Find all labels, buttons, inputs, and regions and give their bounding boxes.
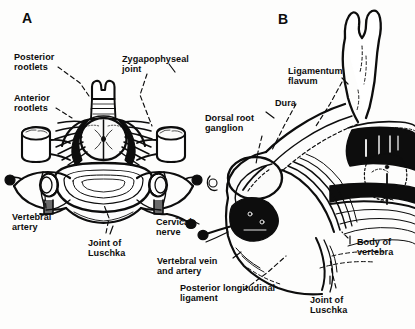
label-posterior-rootlets: Posterior rootlets xyxy=(14,52,54,73)
label-joint-of-luschka-b: Joint of Luschka xyxy=(310,295,347,316)
label-dura: Dura xyxy=(275,98,296,108)
label-ligamentum-flavum: Ligamentum flavum xyxy=(288,66,343,87)
label-posterior-longitudinal-ligament: Posterior longitudinal ligament xyxy=(180,283,275,304)
label-anterior-rootlets: Anterior rootlets xyxy=(14,93,50,114)
label-dorsal-root-ganglion: Dorsal root ganglion xyxy=(205,113,254,134)
label-joint-of-luschka-a: Joint of Luschka xyxy=(88,238,125,259)
label-cervical-nerve: Cervical nerve xyxy=(156,217,192,238)
label-vertebral-artery: Vertebral artery xyxy=(12,212,51,233)
panel-letter-b: B xyxy=(278,11,288,27)
anatomical-figure: A B Posterior rootlets Anterior rootlets… xyxy=(0,0,415,329)
panel-letter-a: A xyxy=(22,10,32,26)
label-vertebral-vein-and-artery: Vertebral vein and artery xyxy=(157,256,217,277)
label-zygapophyseal-joint: Zygapophyseal joint xyxy=(122,54,189,75)
figure-artwork xyxy=(0,0,415,329)
label-body-of-vertebra: Body of vertebra xyxy=(357,237,393,258)
